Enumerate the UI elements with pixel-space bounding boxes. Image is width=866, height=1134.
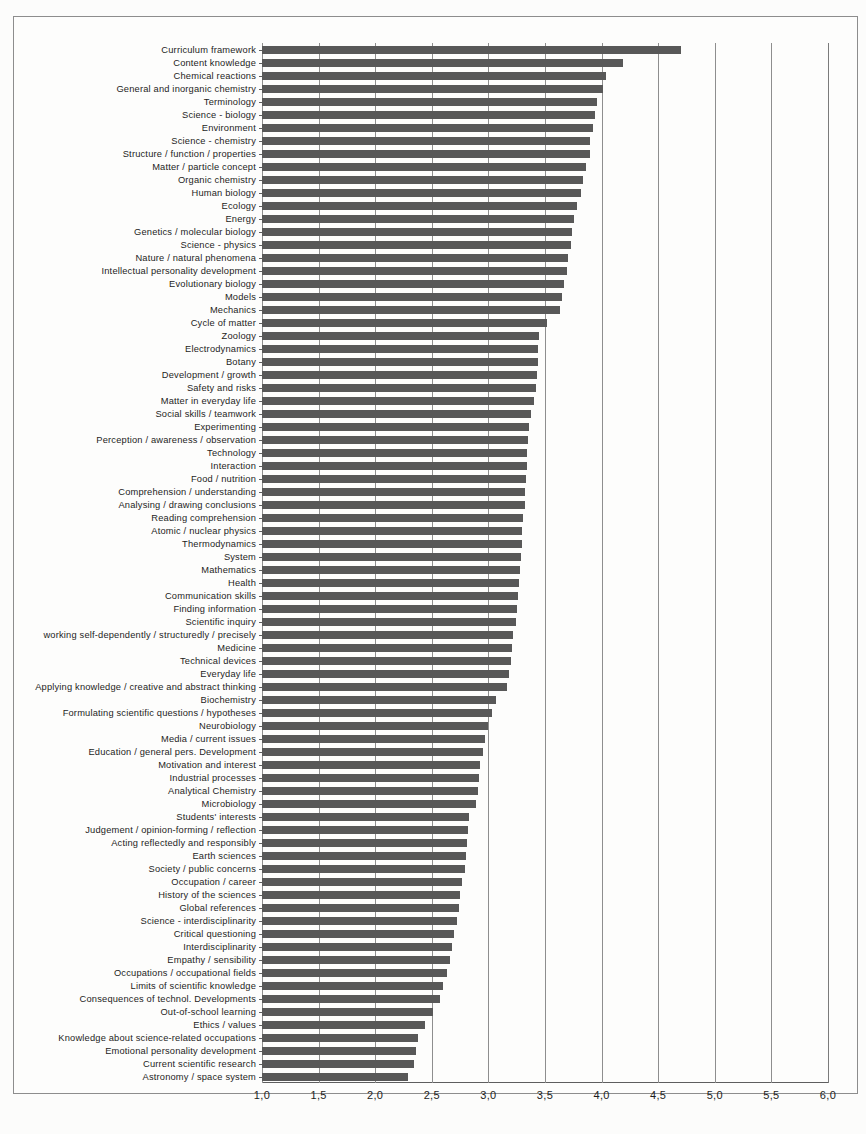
category-label: Analysing / drawing conclusions [118,500,256,510]
bar [262,293,562,301]
bar-row: Biochemistry [262,693,828,706]
bar-row: Communication skills [262,589,828,602]
bar-row: Knowledge about science-related occupati… [262,1031,828,1044]
bar [262,137,590,145]
category-label: Science - interdisciplinarity [141,916,256,926]
category-label: Medicine [217,643,256,653]
category-label: Development / growth [162,370,256,380]
bar [262,241,571,249]
bar [262,904,459,912]
bar [262,865,465,873]
bar-row: Technical devices [262,654,828,667]
bar [262,579,519,587]
bar-row: System [262,550,828,563]
category-label: Media / current issues [161,734,256,744]
category-label: Science - biology [182,110,256,120]
bar-row: Social skills / teamwork [262,407,828,420]
bar [262,631,513,639]
bar-row: Consequences of technol. Developments [262,992,828,1005]
bar-row: Acting reflectedly and responsibly [262,836,828,849]
bar-row: Empathy / sensibility [262,953,828,966]
category-label: Environment [202,123,256,133]
bar [262,644,512,652]
bar [262,436,528,444]
bar-row: Genetics / molecular biology [262,225,828,238]
category-label: Mathematics [201,565,256,575]
bar-row: Botany [262,355,828,368]
bar [262,410,531,418]
bar [262,592,518,600]
bar [262,254,568,262]
bar [262,345,538,353]
bar [262,514,523,522]
bar [262,59,623,67]
category-label: Astronomy / space system [143,1072,256,1082]
category-label: Interaction [211,461,256,471]
bar [262,930,454,938]
category-label: Health [228,578,256,588]
category-label: Structure / function / properties [123,149,256,159]
bar [262,488,525,496]
bar-row: Ethics / values [262,1018,828,1031]
category-label: Everyday life [200,669,256,679]
bar [262,384,536,392]
category-label: Perception / awareness / observation [96,435,256,445]
category-label: Motivation and interest [158,760,256,770]
bar-row: Technology [262,446,828,459]
bar-row: Astronomy / space system [262,1070,828,1083]
bar [262,943,452,951]
bar-row: Finding information [262,602,828,615]
category-label: Occupation / career [171,877,256,887]
bar-row: Structure / function / properties [262,147,828,160]
bar [262,85,603,93]
bar [262,423,529,431]
bar [262,527,522,535]
category-label: Reading comprehension [151,513,256,523]
bar-row: Analysing / drawing conclusions [262,498,828,511]
category-label: Atomic / nuclear physics [151,526,256,536]
plot-area: Curriculum frameworkContent knowledgeChe… [262,43,828,1083]
bar-row: Organic chemistry [262,173,828,186]
bar-row: Society / public concerns [262,862,828,875]
bar [262,800,476,808]
x-tick-label: 2,0 [367,1089,383,1101]
bar [262,839,467,847]
bar-row: Formulating scientific questions / hypot… [262,706,828,719]
bar-row: Science - physics [262,238,828,251]
category-label: Finding information [173,604,256,614]
bar [262,215,574,223]
category-label: Content knowledge [173,58,256,68]
bar [262,995,440,1003]
category-label: Judgement / opinion-forming / reflection [85,825,256,835]
bar [262,722,488,730]
category-label: Human biology [192,188,256,198]
bar [262,267,567,275]
category-label: Zoology [222,331,256,341]
category-label: Electrodynamics [185,344,256,354]
bar-row: Scientific inquiry [262,615,828,628]
category-label: Analytical Chemistry [168,786,256,796]
bar-row: Environment [262,121,828,134]
bar-row: Motivation and interest [262,758,828,771]
bar-row: Interdisciplinarity [262,940,828,953]
category-label: Organic chemistry [178,175,256,185]
bar [262,306,560,314]
bar [262,98,597,106]
bar-row: Everyday life [262,667,828,680]
bar-row: Models [262,290,828,303]
bar-row: Electrodynamics [262,342,828,355]
bar-row: History of the sciences [262,888,828,901]
category-label: Industrial processes [170,773,256,783]
bar-row: Applying knowledge / creative and abstra… [262,680,828,693]
bar [262,358,538,366]
bar [262,449,527,457]
x-tick-label: 1,5 [310,1089,326,1101]
bar [262,1021,425,1029]
category-label: History of the sciences [158,890,256,900]
bar-row: Education / general pers. Development [262,745,828,758]
category-label: Chemical reactions [174,71,256,81]
category-label: Students' interests [176,812,256,822]
bar-row: Comprehension / understanding [262,485,828,498]
bar [262,540,522,548]
bar [262,553,521,561]
